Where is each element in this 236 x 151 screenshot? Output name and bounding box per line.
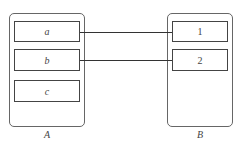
set-a-label: A — [9, 129, 85, 140]
set-b-element-2: 2 — [172, 49, 228, 71]
mapping-line-b-to-2 — [80, 60, 172, 61]
set-b-label: B — [167, 129, 233, 140]
set-a-element-c: c — [14, 80, 80, 102]
mapping-line-a-to-1 — [80, 32, 172, 33]
set-a-element-a: a — [14, 21, 80, 42]
set-a-element-b: b — [14, 49, 80, 71]
set-b-element-1: 1 — [172, 21, 228, 42]
